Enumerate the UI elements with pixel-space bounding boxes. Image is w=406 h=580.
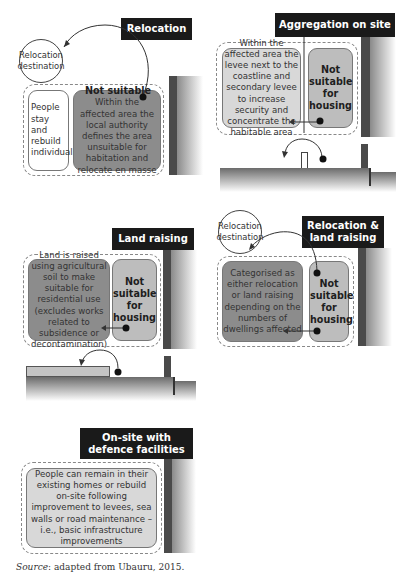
ground xyxy=(220,168,370,192)
source-text: : adapted from Ubauru, 2015. xyxy=(48,562,184,572)
coastal-levee xyxy=(361,144,368,168)
wall-shadow xyxy=(172,459,196,553)
source-caption: Source: adapted from Ubauru, 2015. xyxy=(16,562,184,572)
relocation-land-raising-arrows-icon xyxy=(0,200,406,400)
sea-wall xyxy=(164,459,172,553)
panel-title-onsite-defence: On-site with defence facilities xyxy=(80,428,193,459)
defence-description-box: People can remain in their existing home… xyxy=(26,468,157,548)
small-levee xyxy=(301,152,308,168)
source-label: Source xyxy=(16,562,48,572)
coast-edge xyxy=(369,168,371,186)
sea-ground xyxy=(370,172,396,192)
